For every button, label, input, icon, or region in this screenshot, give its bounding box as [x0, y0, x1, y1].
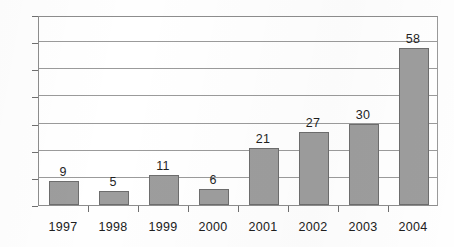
bar [199, 189, 229, 205]
bar-chart: 010203040506070 919975199811199962000212… [0, 0, 454, 247]
x-axis-tick-label: 1997 [38, 220, 88, 234]
bar-value-label: 5 [88, 176, 138, 189]
x-axis-tick-label: 2003 [338, 220, 388, 234]
bar [299, 132, 329, 205]
bar-value-label: 30 [338, 109, 388, 122]
bar [249, 148, 279, 205]
x-axis-tick-label: 2000 [188, 220, 238, 234]
gridline [39, 41, 437, 42]
bar-value-label: 9 [38, 166, 88, 179]
bar [399, 48, 429, 205]
x-axis-tick-mark [138, 206, 139, 212]
y-axis-tick-mark [32, 125, 38, 126]
bar-value-label: 6 [188, 174, 238, 187]
bar [99, 191, 129, 205]
y-axis-tick-mark [32, 97, 38, 98]
x-axis-tick-label: 2001 [238, 220, 288, 234]
gridline [39, 68, 437, 69]
bar-value-label: 11 [138, 160, 188, 173]
x-axis-tick-label: 1998 [88, 220, 138, 234]
x-axis-tick-mark [288, 206, 289, 212]
x-axis-tick-label: 2002 [288, 220, 338, 234]
gridline [39, 95, 437, 96]
x-axis-tick-mark [88, 206, 89, 212]
bar-value-label: 21 [238, 133, 288, 146]
y-axis-tick-mark [32, 16, 38, 17]
y-axis-tick-mark [32, 179, 38, 180]
x-axis-tick-mark [338, 206, 339, 212]
x-axis-tick-mark [188, 206, 189, 212]
x-axis-tick-mark [238, 206, 239, 212]
y-axis-tick-mark [32, 152, 38, 153]
y-axis-tick-mark [32, 43, 38, 44]
bar [49, 181, 79, 205]
x-axis-tick-label: 2004 [388, 220, 438, 234]
y-axis-tick-mark [32, 206, 38, 207]
bar-value-label: 27 [288, 117, 338, 130]
x-axis-tick-mark [388, 206, 389, 212]
y-axis-tick-mark [32, 70, 38, 71]
bar [149, 175, 179, 205]
x-axis-tick-label: 1999 [138, 220, 188, 234]
bar [349, 124, 379, 205]
bar-value-label: 58 [388, 33, 438, 46]
